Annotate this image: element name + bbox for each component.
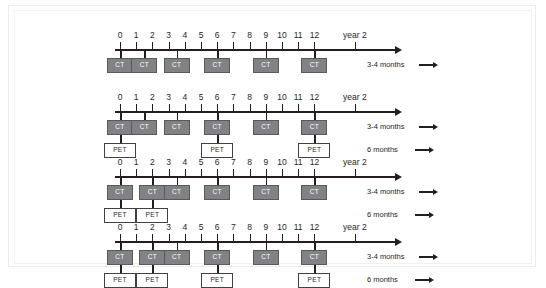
ct-box[interactable]: CT: [107, 58, 133, 73]
axis-tick: [169, 104, 170, 111]
axis-tick: [266, 234, 267, 241]
pet-connector: [152, 200, 154, 208]
axis-tick: [169, 42, 170, 49]
ct-box[interactable]: CT: [164, 250, 190, 265]
legend-ct-arrowhead-icon: [433, 124, 438, 130]
axis-tick: [185, 104, 186, 111]
axis-arrow-icon: [395, 46, 402, 54]
ct-box[interactable]: CT: [139, 250, 165, 265]
ct-box[interactable]: CT: [164, 58, 190, 73]
axis-tick: [282, 234, 283, 241]
legend-ct-arrowhead-icon: [433, 62, 438, 68]
axis-tick: [169, 169, 170, 176]
axis-tick: [266, 104, 267, 111]
ct-box[interactable]: CT: [204, 185, 230, 200]
axis-tick: [136, 234, 137, 241]
figure-inner: 0123456789101112year 2CTCTCTCTCTCT3-4 mo…: [14, 10, 532, 264]
axis-tick: [233, 104, 234, 111]
ct-box[interactable]: CT: [301, 58, 327, 73]
ct-box[interactable]: CT: [301, 120, 327, 135]
axis-tick-year2: [355, 104, 356, 111]
legend-ct-interval: 3-4 months: [367, 60, 405, 70]
axis-tick: [136, 104, 137, 111]
axis-tick: [217, 234, 218, 241]
ct-box[interactable]: CT: [139, 185, 165, 200]
ct-box[interactable]: CT: [301, 185, 327, 200]
pet-box[interactable]: PET: [201, 143, 233, 158]
legend-ct-arrow-icon: [419, 191, 433, 193]
axis-tick: [120, 42, 121, 49]
pet-connector: [152, 265, 154, 273]
ct-box[interactable]: CT: [253, 185, 279, 200]
pet-box[interactable]: PET: [104, 273, 136, 288]
ct-box[interactable]: CT: [107, 185, 133, 200]
legend-pet-arrowhead-icon: [429, 277, 434, 283]
axis-arrow-icon: [395, 238, 402, 246]
axis-tick-year2: [355, 234, 356, 241]
timeline-axis: [115, 49, 395, 51]
axis-tick: [185, 42, 186, 49]
ct-box[interactable]: CT: [131, 58, 157, 73]
legend-ct-interval: 3-4 months: [367, 252, 405, 262]
axis-arrow-icon: [395, 173, 402, 181]
axis-tick-label: 12: [304, 30, 324, 40]
pet-connector: [120, 265, 122, 273]
ct-box[interactable]: CT: [107, 120, 133, 135]
timeline-axis: [115, 111, 395, 113]
axis-year2-label: year 2: [335, 30, 375, 40]
pet-box[interactable]: PET: [201, 273, 233, 288]
pet-box[interactable]: PET: [136, 208, 168, 223]
pet-box[interactable]: PET: [298, 273, 330, 288]
pet-box[interactable]: PET: [104, 208, 136, 223]
legend-pet-interval: 6 months: [367, 275, 398, 285]
axis-tick: [314, 42, 315, 49]
axis-tick: [201, 169, 202, 176]
pet-box[interactable]: PET: [104, 143, 136, 158]
legend-pet-arrow-icon: [415, 279, 429, 281]
axis-tick: [282, 104, 283, 111]
pet-connector: [314, 265, 316, 273]
legend-ct-arrow-icon: [419, 126, 433, 128]
axis-tick: [233, 234, 234, 241]
ct-box[interactable]: CT: [301, 250, 327, 265]
ct-box[interactable]: CT: [164, 120, 190, 135]
pet-box[interactable]: PET: [298, 143, 330, 158]
axis-tick-year2: [355, 169, 356, 176]
axis-tick: [314, 104, 315, 111]
axis-tick: [298, 42, 299, 49]
axis-tick: [298, 104, 299, 111]
axis-year2-label: year 2: [335, 157, 375, 167]
pet-connector: [217, 265, 219, 273]
axis-tick: [250, 104, 251, 111]
ct-box[interactable]: CT: [253, 58, 279, 73]
ct-box[interactable]: CT: [204, 250, 230, 265]
ct-box[interactable]: CT: [253, 250, 279, 265]
axis-tick: [201, 104, 202, 111]
legend-ct-interval: 3-4 months: [367, 122, 405, 132]
legend-ct-arrow-icon: [419, 64, 433, 66]
pet-connector: [120, 135, 122, 143]
axis-year2-label: year 2: [335, 222, 375, 232]
ct-box[interactable]: CT: [131, 120, 157, 135]
axis-tick: [152, 42, 153, 49]
legend-ct-arrow-icon: [419, 256, 433, 258]
ct-box[interactable]: CT: [164, 185, 190, 200]
legend-pet-arrowhead-icon: [429, 147, 434, 153]
axis-tick: [217, 169, 218, 176]
axis-tick: [201, 42, 202, 49]
pet-box[interactable]: PET: [136, 273, 168, 288]
axis-tick: [152, 104, 153, 111]
axis-tick-label: 12: [304, 92, 324, 102]
axis-tick: [185, 169, 186, 176]
ct-box[interactable]: CT: [107, 250, 133, 265]
ct-box[interactable]: CT: [204, 58, 230, 73]
figure-frame: 0123456789101112year 2CTCTCTCTCTCT3-4 mo…: [8, 5, 536, 267]
axis-tick: [250, 42, 251, 49]
axis-year2-label: year 2: [335, 92, 375, 102]
axis-tick: [282, 42, 283, 49]
axis-tick: [250, 169, 251, 176]
legend-pet-arrowhead-icon: [429, 212, 434, 218]
ct-box[interactable]: CT: [253, 120, 279, 135]
ct-box[interactable]: CT: [204, 120, 230, 135]
axis-tick: [152, 234, 153, 241]
